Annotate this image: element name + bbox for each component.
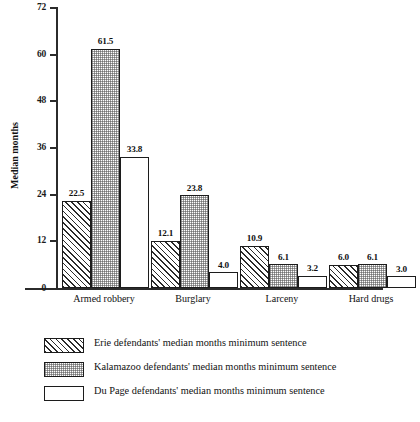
bar-value-hard-drugs-dupage: 3.0 — [381, 264, 420, 274]
y-tick-label-72: 72 — [20, 2, 46, 12]
y-tick-label-24: 24 — [20, 189, 46, 199]
bar-value-larceny-erie: 10.9 — [234, 233, 275, 243]
legend-label-kalamazoo: Kalamazoo defendants' median months mini… — [94, 361, 336, 372]
y-tick-36 — [50, 147, 56, 149]
legend-item-kalamazoo: Kalamazoo defendants' median months mini… — [44, 360, 364, 384]
legend-label-erie: Erie defendants' median months minimum s… — [94, 337, 307, 348]
y-tick-48 — [50, 100, 56, 102]
bar-value-armed-robbery-dupage: 33.8 — [114, 144, 155, 154]
y-tick-label-36: 36 — [20, 142, 46, 152]
legend-swatch-kalamazoo — [44, 362, 84, 377]
bar-hard-drugs-erie — [329, 265, 358, 288]
y-tick-72 — [50, 7, 56, 9]
clipped-footer-text — [0, 416, 383, 422]
legend-item-erie: Erie defendants' median months minimum s… — [44, 336, 364, 360]
bar-armed-robbery-dupage — [120, 157, 149, 288]
bar-value-hard-drugs-kalamazoo: 6.1 — [352, 252, 393, 262]
bar-armed-robbery-erie — [62, 201, 91, 289]
x-label-armed-robbery: Armed robbery — [58, 293, 150, 304]
legend: Erie defendants' median months minimum s… — [44, 336, 364, 408]
y-tick-label-48: 48 — [20, 95, 46, 105]
y-axis-title: Median months — [9, 101, 20, 211]
y-tick-label-60: 60 — [20, 49, 46, 59]
legend-swatch-erie — [44, 338, 84, 353]
bar-burglary-erie — [151, 241, 180, 288]
y-tick-label-12: 12 — [20, 235, 46, 245]
y-tick-60 — [50, 54, 56, 56]
bar-burglary-kalamazoo — [180, 195, 209, 288]
x-label-larceny: Larceny — [236, 293, 328, 304]
x-axis-line — [25, 288, 383, 290]
bar-hard-drugs-dupage — [387, 276, 416, 288]
y-tick-label-0: 0 — [20, 283, 46, 293]
bar-value-larceny-kalamazoo: 6.1 — [263, 252, 304, 262]
bar-value-burglary-dupage: 4.0 — [203, 260, 244, 270]
legend-label-dupage: Du Page defendants' median months minimu… — [94, 385, 325, 396]
y-tick-12 — [50, 240, 56, 242]
bar-larceny-dupage — [298, 276, 327, 288]
plot-area: 22.5 61.5 33.8 12.1 23.8 4.0 10.9 6.1 3.… — [57, 8, 379, 288]
legend-item-dupage: Du Page defendants' median months minimu… — [44, 384, 364, 408]
x-label-hard-drugs: Hard drugs — [325, 293, 417, 304]
bar-value-armed-robbery-kalamazoo: 61.5 — [85, 36, 126, 46]
legend-swatch-dupage — [44, 386, 84, 401]
bar-value-larceny-dupage: 3.2 — [292, 263, 333, 273]
x-label-burglary: Burglary — [147, 293, 239, 304]
bar-armed-robbery-kalamazoo — [91, 49, 120, 288]
bar-burglary-dupage — [209, 272, 238, 288]
bar-value-burglary-kalamazoo: 23.8 — [174, 183, 215, 193]
